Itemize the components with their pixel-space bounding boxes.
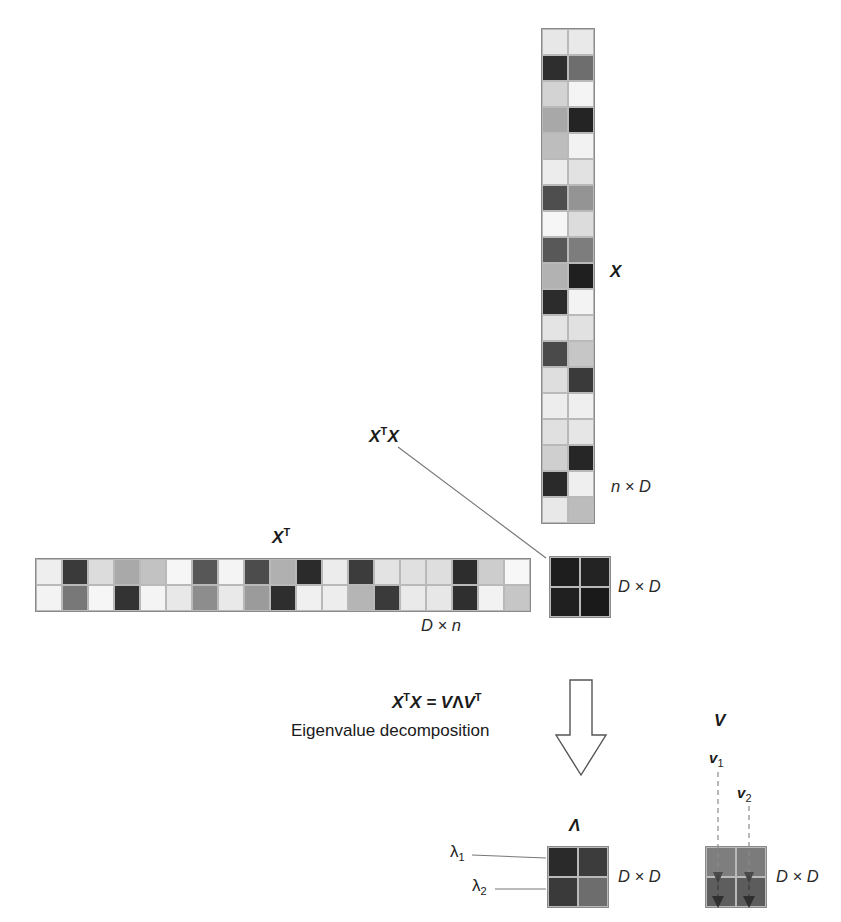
connector-line bbox=[398, 447, 546, 558]
matrix-cell bbox=[218, 559, 244, 585]
matrix-cell bbox=[322, 559, 348, 585]
eigenvector-label-2: v2 bbox=[737, 785, 752, 804]
matrix-cell bbox=[296, 559, 322, 585]
matrix-cell bbox=[568, 315, 594, 341]
eigenvalue-1-leader-line bbox=[472, 855, 546, 858]
matrix-cell bbox=[348, 559, 374, 585]
matrix-cell bbox=[374, 585, 400, 611]
matrix-cell bbox=[568, 419, 594, 445]
matrix-cell bbox=[568, 55, 594, 81]
matrix-cell bbox=[478, 585, 504, 611]
matrix-cell bbox=[542, 419, 568, 445]
matrix-cell bbox=[192, 559, 218, 585]
xtx-label-base2: X bbox=[387, 427, 399, 446]
eigenvector-1-symbol: v bbox=[709, 749, 718, 766]
matrix-cell bbox=[140, 559, 166, 585]
matrix-cell bbox=[542, 159, 568, 185]
eigendecomposition-caption: Eigenvalue decomposition bbox=[291, 722, 489, 739]
matrix-cell bbox=[296, 585, 322, 611]
matrix-X-dim-label: n × D bbox=[611, 478, 651, 495]
matrix-cell bbox=[568, 445, 594, 471]
matrix-cell bbox=[568, 367, 594, 393]
matrix-cell bbox=[542, 341, 568, 367]
matrix-cell bbox=[270, 585, 296, 611]
matrix-XTX-dim-label: D × D bbox=[618, 578, 661, 595]
eigenvector-1-subscript: 1 bbox=[718, 757, 724, 769]
matrix-cell bbox=[542, 185, 568, 211]
matrix-cell bbox=[548, 847, 578, 877]
figure-overlay-graphics bbox=[0, 0, 841, 922]
matrix-lambda-name: Λ bbox=[569, 817, 581, 834]
matrix-cell bbox=[568, 211, 594, 237]
matrix-cell bbox=[568, 237, 594, 263]
matrix-cell bbox=[542, 263, 568, 289]
matrix-V-dim-label: D × D bbox=[776, 868, 819, 885]
matrix-cell bbox=[578, 847, 608, 877]
matrix-cell bbox=[542, 237, 568, 263]
matrix-cell bbox=[244, 559, 270, 585]
matrix-cell bbox=[542, 81, 568, 107]
matrix-cell bbox=[568, 29, 594, 55]
matrix-cell bbox=[542, 133, 568, 159]
matrix-cell bbox=[426, 585, 452, 611]
eigenvector-2-subscript: 2 bbox=[746, 792, 752, 804]
eigenvalue-2-symbol: λ bbox=[472, 876, 481, 895]
matrix-cell bbox=[568, 81, 594, 107]
matrix-cell bbox=[166, 559, 192, 585]
matrix-cell bbox=[542, 289, 568, 315]
equation-superscript-2: T bbox=[475, 691, 482, 703]
matrix-cell bbox=[568, 133, 594, 159]
matrix-lambda-dim-label: D × D bbox=[618, 868, 661, 885]
matrix-X-transpose-name-superscript: T bbox=[284, 526, 291, 538]
matrix-cell bbox=[542, 393, 568, 419]
matrix-X-transpose-dim-label: D × n bbox=[421, 617, 461, 634]
equation-lambda: Λ bbox=[452, 693, 463, 712]
matrix-cell bbox=[140, 585, 166, 611]
matrix-cell bbox=[542, 471, 568, 497]
matrix-cell bbox=[244, 585, 270, 611]
matrix-cell bbox=[426, 559, 452, 585]
matrix-cell bbox=[322, 585, 348, 611]
matrix-cell bbox=[504, 559, 530, 585]
matrix-cell bbox=[36, 559, 62, 585]
matrix-cell bbox=[578, 877, 608, 907]
matrix-cell bbox=[62, 585, 88, 611]
matrix-cell bbox=[166, 585, 192, 611]
matrix-cell bbox=[542, 107, 568, 133]
matrix-cell bbox=[550, 587, 580, 617]
matrix-cell bbox=[218, 585, 244, 611]
matrix-cell bbox=[568, 107, 594, 133]
matrix-cell bbox=[568, 289, 594, 315]
matrix-X-name: X bbox=[610, 263, 622, 280]
matrix-cell bbox=[568, 159, 594, 185]
matrix-V-name: V bbox=[714, 712, 726, 729]
matrix-X-transpose-name-base: X bbox=[272, 528, 284, 547]
matrix-cell bbox=[192, 585, 218, 611]
matrix-X-transpose bbox=[35, 558, 531, 612]
matrix-cell bbox=[400, 585, 426, 611]
matrix-cell bbox=[374, 559, 400, 585]
eigendecomposition-equation: XTX = VΛVT bbox=[392, 692, 482, 711]
figure-canvas: X n × D XT D × n XTX D × D XTX = VΛVT Ei… bbox=[0, 0, 841, 922]
matrix-cell bbox=[548, 877, 578, 907]
matrix-cell bbox=[88, 585, 114, 611]
matrix-cell bbox=[542, 55, 568, 81]
matrix-cell bbox=[550, 557, 580, 587]
matrix-cell bbox=[568, 497, 594, 523]
matrix-cell bbox=[452, 559, 478, 585]
matrix-cell bbox=[542, 367, 568, 393]
matrix-cell bbox=[542, 29, 568, 55]
matrix-XTX bbox=[549, 556, 611, 618]
eigenvector-2-symbol: v bbox=[737, 784, 746, 801]
eigenvalue-1-symbol: λ bbox=[450, 842, 459, 861]
equation-X: X bbox=[392, 693, 403, 712]
xtx-label-base: X bbox=[369, 427, 381, 446]
matrix-cell bbox=[580, 557, 610, 587]
matrix-cell bbox=[504, 585, 530, 611]
matrix-cell bbox=[580, 587, 610, 617]
matrix-cell bbox=[568, 471, 594, 497]
matrix-cell bbox=[706, 877, 736, 907]
down-block-arrow bbox=[556, 680, 606, 775]
eigenvalue-2-subscript: 2 bbox=[481, 885, 487, 897]
matrix-lambda bbox=[547, 846, 609, 908]
